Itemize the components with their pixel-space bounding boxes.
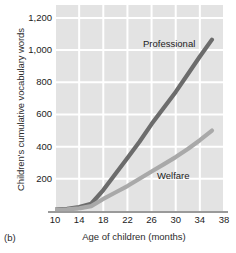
plot-area [55, 5, 224, 211]
x-tick-label: 34 [187, 214, 213, 226]
y-tick-label: 600 [8, 109, 52, 119]
x-tick-label: 10 [42, 214, 68, 226]
series-label-professional: Professional [143, 38, 195, 49]
x-tick-label: 22 [114, 214, 140, 226]
y-tick-label: 200 [8, 174, 52, 184]
x-axis-title: Age of children (months) [36, 231, 232, 242]
panel-caption: (b) [4, 232, 16, 243]
x-tick-label: 18 [90, 214, 116, 226]
x-tick-label: 38 [211, 214, 236, 226]
x-tick-label: 26 [139, 214, 165, 226]
y-tick-label: 1,000 [8, 45, 52, 55]
y-tick-label: 800 [8, 77, 52, 87]
chart-svg [55, 5, 224, 211]
x-tick-label: 30 [163, 214, 189, 226]
series-label-welfare: Welfare [157, 170, 190, 181]
figure-panel: Children's cumulative vocabulary words 2… [0, 0, 236, 253]
x-axis-tick-labels: 1014182226303438 [0, 214, 236, 228]
y-tick-label: 400 [8, 142, 52, 152]
x-axis-line [48, 211, 228, 213]
y-tick-label: 1,200 [8, 13, 52, 23]
x-tick-label: 14 [66, 214, 92, 226]
